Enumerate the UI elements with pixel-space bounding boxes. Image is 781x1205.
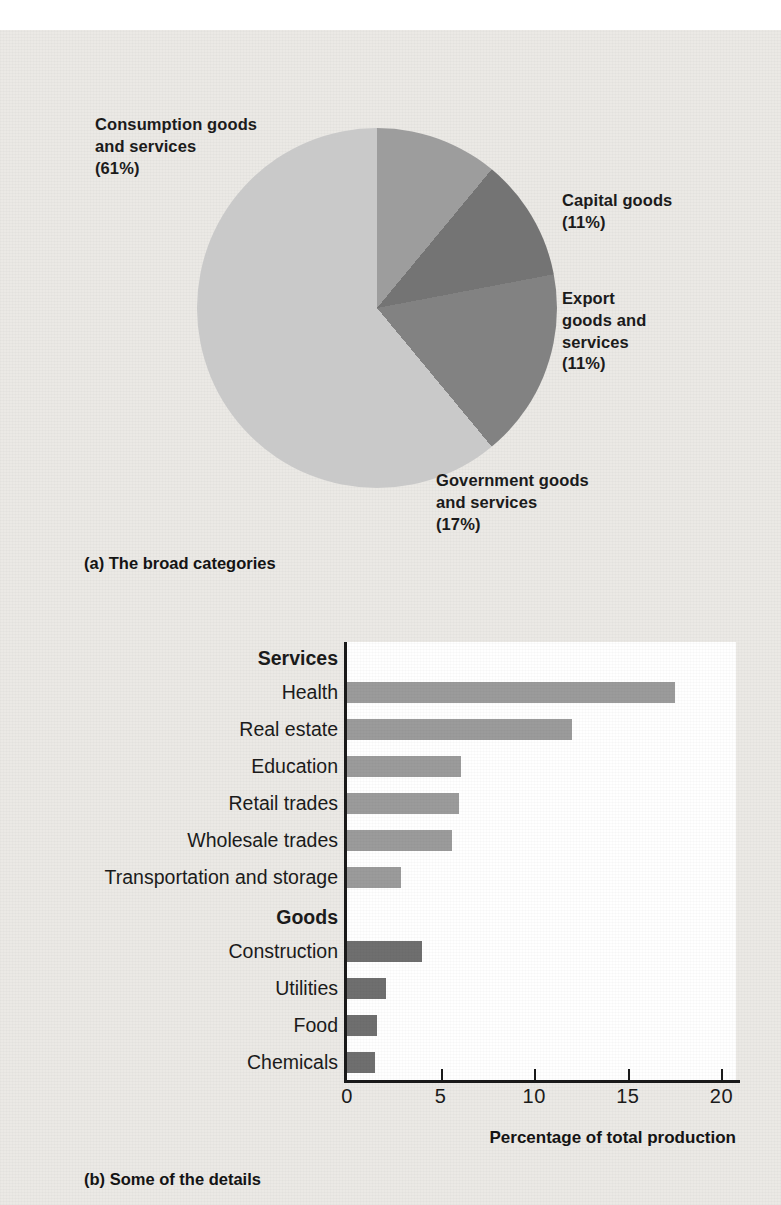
bar-utilities (347, 978, 386, 999)
bar-wholesale-trades (347, 830, 452, 851)
bar-group-heading-row: Goods (0, 904, 781, 930)
bar-row: Construction (0, 938, 781, 964)
bar-category-label: Utilities (18, 975, 338, 1001)
bar-transportation-and-storage (347, 867, 401, 888)
pie-label-line: (11%) (562, 212, 672, 234)
bar-row: Health (0, 679, 781, 705)
bar-category-label: Food (18, 1012, 338, 1038)
x-tick-label: 15 (616, 1085, 639, 1108)
bar-group-label-services: Services (18, 645, 338, 671)
x-tick-label: 0 (341, 1085, 353, 1108)
pie-label-line: services (562, 332, 646, 354)
pie-label-line: Capital goods (562, 190, 672, 212)
pie-chart (197, 128, 557, 488)
x-axis-title: Percentage of total production (0, 1128, 736, 1148)
pie-label-line: and services (436, 492, 589, 514)
bar-chemicals (347, 1052, 375, 1073)
bar-row: Utilities (0, 975, 781, 1001)
bar-group-heading-row: Services (0, 645, 781, 671)
bar-group-label-goods: Goods (18, 904, 338, 930)
bar-category-label: Education (18, 753, 338, 779)
pie-label-line: (17%) (436, 514, 589, 536)
pie-label-export: Exportgoods andservices(11%) (562, 288, 646, 375)
bar-category-label: Transportation and storage (18, 864, 338, 890)
pie-label-line: (11%) (562, 353, 646, 375)
bar-category-label: Real estate (18, 716, 338, 742)
pie-label-line: goods and (562, 310, 646, 332)
x-tick-label: 10 (523, 1085, 546, 1108)
x-tick-label: 5 (435, 1085, 447, 1108)
caption-panel-a: (a) The broad categories (84, 554, 276, 573)
bar-health (347, 682, 675, 703)
bar-row: Wholesale trades (0, 827, 781, 853)
pie-label-line: and services (95, 136, 257, 158)
page-top-margin (0, 0, 781, 30)
bar-row: Retail trades (0, 790, 781, 816)
bar-construction (347, 941, 422, 962)
bar-real-estate (347, 719, 572, 740)
panel-a-pie-chart: Consumption goodsand services(61%) Capit… (0, 30, 781, 590)
bar-retail-trades (347, 793, 459, 814)
bar-category-label: Construction (18, 938, 338, 964)
bar-category-label: Chemicals (18, 1049, 338, 1075)
bar-education (347, 756, 461, 777)
bar-category-label: Health (18, 679, 338, 705)
x-tick-mark (721, 1069, 723, 1080)
bar-chart: ServicesHealthReal estateEducationRetail… (0, 590, 781, 1205)
caption-panel-b: (b) Some of the details (84, 1170, 261, 1189)
bar-category-label: Retail trades (18, 790, 338, 816)
bar-category-label: Wholesale trades (18, 827, 338, 853)
x-tick-label: 20 (710, 1085, 733, 1108)
bar-row: Transportation and storage (0, 864, 781, 890)
pie-label-line: (61%) (95, 158, 257, 180)
x-axis-line (344, 1080, 740, 1083)
pie-label-capital: Capital goods(11%) (562, 190, 672, 234)
pie-label-government: Government goodsand services(17%) (436, 470, 589, 535)
bar-row: Real estate (0, 716, 781, 742)
pie-label-line: Consumption goods (95, 114, 257, 136)
panel-b-bar-chart: ServicesHealthReal estateEducationRetail… (0, 590, 781, 1205)
y-axis-line (344, 642, 347, 1082)
scanned-page: Consumption goodsand services(61%) Capit… (0, 30, 781, 1205)
x-tick-mark (534, 1069, 536, 1080)
pie-label-line: Export (562, 288, 646, 310)
bar-row: Education (0, 753, 781, 779)
x-tick-mark (441, 1069, 443, 1080)
pie-label-consumption: Consumption goodsand services(61%) (95, 114, 257, 179)
bar-food (347, 1015, 377, 1036)
bar-row: Chemicals (0, 1049, 781, 1075)
pie-label-line: Government goods (436, 470, 589, 492)
x-tick-mark (628, 1069, 630, 1080)
bar-row: Food (0, 1012, 781, 1038)
